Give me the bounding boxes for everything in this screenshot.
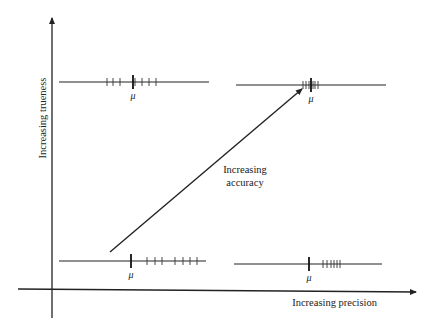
accuracy-label-line2: accuracy <box>226 177 264 188</box>
x-axis <box>18 289 416 292</box>
y-axis-label: Increasing trueness <box>37 78 48 159</box>
x-axis-label: Increasing precision <box>292 297 378 308</box>
mu-label: μ <box>129 90 135 101</box>
mu-label: μ <box>305 272 311 283</box>
mu-label: μ <box>127 269 133 280</box>
accuracy-arrow <box>110 89 302 252</box>
mu-label: μ <box>307 93 313 104</box>
number-line-panels: μμμμ <box>59 75 386 283</box>
number-line-bottom-left: μ <box>59 254 206 280</box>
number-line-top-right: μ <box>236 78 386 104</box>
number-line-top-left: μ <box>59 75 209 101</box>
diagram-canvas: Increasing trueness Increasing precision… <box>0 0 439 336</box>
accuracy-label-line1: Increasing <box>223 164 267 175</box>
number-line-bottom-right: μ <box>234 257 382 283</box>
